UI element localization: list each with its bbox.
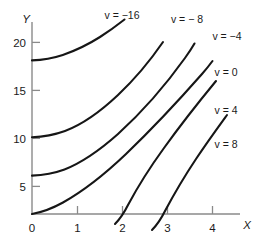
- curve-v-neg16: [32, 20, 125, 61]
- curve-label-v-0: v = 0: [214, 66, 237, 78]
- y-tick-label-10: 10: [13, 133, 26, 145]
- x-tick-label-0: 0: [29, 222, 35, 234]
- curve-label-v-neg16: v = −16: [104, 9, 139, 21]
- y-tick-label-5: 5: [20, 181, 26, 193]
- chart-figure: Y X 20 15 10 5 0 1 2 3 4 v = −16 v = − 8…: [0, 0, 259, 246]
- x-tick-label-1: 1: [74, 222, 80, 234]
- curve-v-0: [32, 61, 213, 214]
- y-tick-label-20: 20: [13, 37, 26, 49]
- curve-v-8: [152, 115, 227, 230]
- curve-label-v-neg8: v = − 8: [171, 13, 203, 25]
- hyperbola-family-plot: Y X 20 15 10 5 0 1 2 3 4 v = −16 v = − 8…: [0, 0, 259, 246]
- y-axis-title: Y: [22, 13, 31, 25]
- curve-label-v-8: v = 8: [214, 138, 237, 150]
- y-tick-label-15: 15: [13, 85, 26, 97]
- x-axis-title: X: [242, 219, 252, 231]
- curve-label-v-neg4: v = −4: [212, 30, 241, 42]
- curve-label-v-4: v = 4: [214, 104, 237, 116]
- x-tick-label-3: 3: [164, 222, 170, 234]
- x-tick-label-2: 2: [119, 222, 125, 234]
- curve-v-neg8: [32, 42, 163, 137]
- x-tick-label-4: 4: [209, 222, 216, 234]
